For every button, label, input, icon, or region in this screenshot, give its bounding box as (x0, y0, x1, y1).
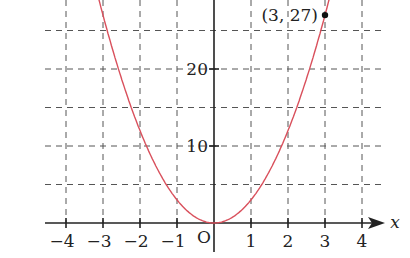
x-tick-label: 1 (246, 231, 257, 251)
x-tick-label: 4 (357, 231, 368, 251)
origin-label: O (197, 227, 211, 247)
x-tick-label: −3 (86, 231, 111, 251)
x-axis-label: x (390, 212, 400, 232)
x-tick-label: 2 (283, 231, 294, 251)
axes (45, 0, 385, 252)
point-marker (322, 12, 328, 18)
y-tick-label: 10 (186, 136, 208, 156)
y-tick-label: 20 (186, 59, 208, 79)
point-annotation: (3, 27) (261, 5, 318, 25)
x-tick-label: −4 (49, 231, 74, 251)
parabola-chart: −4−3−2−112341020Ox(3, 27) (0, 0, 410, 258)
grid-lines (45, 0, 385, 223)
x-tick-label: 3 (320, 231, 331, 251)
x-tick-label: −1 (160, 231, 185, 251)
x-tick-label: −2 (123, 231, 148, 251)
